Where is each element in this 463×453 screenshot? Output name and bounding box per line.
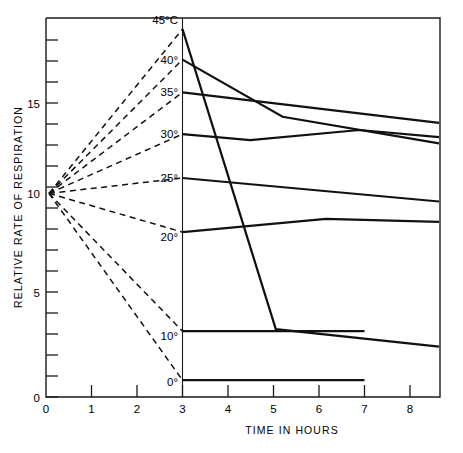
x-axis-title: TIME IN HOURS: [245, 424, 339, 436]
x-axis-tick-labels: 0 1 2 3 4 5 6 7 8: [43, 403, 413, 415]
y-axis-title: RELATIVE RATE OF RESPIRATION: [12, 106, 24, 308]
y-tick-label-0: 0: [34, 392, 40, 404]
series-label-25: 25°: [161, 172, 178, 184]
x-tick-label-1: 1: [88, 403, 94, 415]
x-tick-label-3: 3: [179, 403, 185, 415]
dashed-transition-segments: [49, 29, 183, 380]
dashed-segment-0: [49, 193, 183, 380]
curve-25: [183, 178, 440, 202]
x-tick-label-2: 2: [134, 403, 140, 415]
y-axis-tick-labels: 0 5 10 15: [27, 98, 40, 404]
x-tick-label-7: 7: [361, 403, 367, 415]
series-label-35: 35°: [161, 86, 178, 98]
dashed-segment-10: [49, 193, 183, 331]
respiration-temperature-chart: 0 5 10 15 0 1 2 3 4 5 6 7 8 45°C 40° 35°…: [0, 0, 463, 453]
curve-40: [183, 60, 440, 144]
series-label-30: 30°: [161, 128, 178, 140]
y-tick-label-5: 5: [34, 287, 40, 299]
x-tick-label-8: 8: [407, 403, 413, 415]
y-tick-label-15: 15: [27, 98, 40, 110]
x-tick-label-5: 5: [270, 403, 276, 415]
curve-30: [183, 130, 440, 140]
dashed-segment-20: [49, 193, 183, 232]
y-axis-ticks: [46, 40, 58, 397]
series-label-20: 20°: [161, 231, 178, 243]
curve-20: [183, 219, 440, 232]
x-tick-label-6: 6: [316, 403, 322, 415]
curve-45: [183, 29, 440, 347]
dashed-segment-30: [49, 134, 183, 193]
series-label-0: 0°: [167, 376, 178, 388]
series-label-40: 40°: [161, 54, 178, 66]
x-axis-ticks: [92, 385, 411, 397]
y-tick-label-10: 10: [27, 188, 40, 200]
chart-plot-area: 0 5 10 15 0 1 2 3 4 5 6 7 8 45°C 40° 35°…: [0, 0, 463, 453]
x-tick-label-4: 4: [225, 403, 232, 415]
solid-response-curves: [183, 29, 440, 380]
series-label-45: 45°C: [152, 14, 178, 26]
series-endpoint-labels: 45°C 40° 35° 30° 25° 20° 10° 0°: [152, 14, 178, 388]
series-label-10: 10°: [161, 330, 178, 342]
curve-35: [183, 92, 440, 123]
x-tick-label-0: 0: [43, 403, 49, 415]
